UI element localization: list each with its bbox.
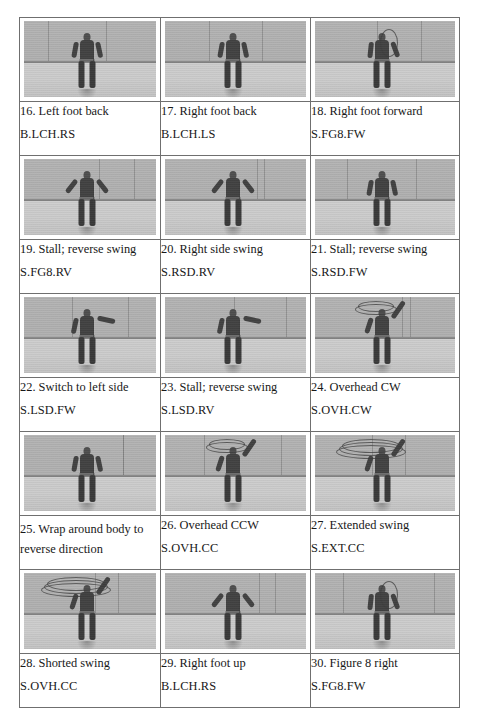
leg-shape <box>79 337 85 364</box>
figure-caption-cell: 26. Overhead CCWS.OVH.CC <box>161 516 311 570</box>
figure-technique-code: S.LSD.RV <box>161 404 310 416</box>
legs-shape <box>374 61 391 88</box>
torso-shape <box>80 178 94 199</box>
figure-caption-title: 16. Left foot back <box>20 105 160 117</box>
figure-photo-cell <box>161 156 311 240</box>
figure-caption-cell: 23. Stall; reverse swingS.LSD.RV <box>161 378 311 432</box>
gym-photo <box>24 297 156 373</box>
figure-caption-title: 21. Stall; reverse swing <box>311 243 459 255</box>
figure-caption-row: 28. Shorted swingS.OVH.CC29. Right foot … <box>20 654 460 708</box>
leg-shape <box>224 199 230 226</box>
leg-shape <box>374 337 380 364</box>
wall-seam <box>281 435 282 475</box>
rope-loop <box>206 442 248 453</box>
left-arm-shape <box>368 42 375 58</box>
figure-technique-code: B.LCH.LS <box>161 128 310 140</box>
left-arm-shape <box>71 318 79 335</box>
figure-photo-cell <box>161 432 311 516</box>
legs-shape <box>374 475 391 502</box>
figure-caption-cell: 20. Right side swingS.RSD.RV <box>161 240 311 294</box>
wall-seam <box>275 573 276 613</box>
figure-technique-code: S.LSD.FW <box>20 404 160 416</box>
leg-shape <box>79 613 85 640</box>
figure-photo-cell <box>20 432 161 516</box>
left-arm-shape <box>364 318 374 335</box>
figure-technique-code: S.OVH.CC <box>20 680 160 692</box>
rope-line <box>93 320 94 346</box>
figure-caption-title: 28. Shorted swing <box>20 657 160 669</box>
figure-caption-cell: 21. Stall; reverse swingS.RSD.FW <box>311 240 460 294</box>
rope-line <box>239 320 240 346</box>
leg-shape <box>385 337 391 364</box>
legs-shape <box>224 475 241 502</box>
leg-shape <box>90 613 96 640</box>
torso-shape <box>80 316 94 337</box>
gym-photo <box>24 573 156 649</box>
document-page: 16. Left foot backB.LCH.RS17. Right foot… <box>0 0 478 721</box>
wall-seam <box>118 573 119 613</box>
gym-photo <box>315 297 455 373</box>
figure-photo-row <box>20 294 460 378</box>
figure-caption-title: 24. Overhead CW <box>311 381 459 393</box>
figure-caption-title: 20. Right side swing <box>161 243 310 255</box>
figure-photo-cell <box>20 156 161 240</box>
floor-reflection <box>372 227 392 235</box>
rope-loop <box>336 445 406 459</box>
person-figure <box>220 447 246 503</box>
floor-reflection <box>372 89 392 97</box>
left-arm-shape <box>217 42 225 59</box>
gym-photo <box>165 573 306 649</box>
figure-caption-title: 17. Right foot back <box>161 105 310 117</box>
right-arm-shape <box>97 316 116 325</box>
floor-reflection <box>372 503 392 511</box>
right-arm-shape <box>241 593 255 609</box>
gym-photo <box>315 21 455 97</box>
torso-shape <box>375 316 389 337</box>
figure-caption-title: 25. Wrap around body to reverse directio… <box>20 519 160 559</box>
floor-reflection <box>223 227 243 235</box>
gym-photo <box>165 159 306 235</box>
figure-caption-title: 26. Overhead CCW <box>161 519 310 531</box>
figure-photo-row <box>20 432 460 516</box>
left-arm-shape <box>210 593 224 609</box>
figure-technique-code: S.RSD.RV <box>161 266 310 278</box>
figure-caption-title: 30. Figure 8 right <box>311 657 459 669</box>
figure-technique-code: S.OVH.CW <box>311 404 459 416</box>
figure-caption-title: 22. Switch to left side <box>20 381 160 393</box>
figure-caption-title: 29. Right foot up <box>161 657 310 669</box>
figure-photo-cell <box>311 18 460 102</box>
figure-photo-cell <box>311 570 460 654</box>
left-arm-shape <box>65 179 79 195</box>
left-arm-shape <box>368 594 375 610</box>
figure-caption-cell: 28. Shorted swingS.OVH.CC <box>20 654 161 708</box>
leg-shape <box>385 61 391 88</box>
gym-photo <box>24 435 156 511</box>
legs-shape <box>79 613 96 640</box>
rope-line <box>93 182 94 208</box>
gym-photo <box>315 159 455 235</box>
leg-shape <box>79 199 85 226</box>
figure-caption-cell: 22. Switch to left sideS.LSD.FW <box>20 378 161 432</box>
person-figure <box>74 309 100 365</box>
gym-photo <box>24 159 156 235</box>
figure-caption-title: 23. Stall; reverse swing <box>161 381 310 393</box>
floor-reflection <box>223 503 243 511</box>
gym-photo <box>315 573 455 649</box>
figure-technique-code: S.FG8.FW <box>311 128 459 140</box>
figure-technique-code: B.LCH.RS <box>20 128 160 140</box>
torso-shape <box>375 178 389 199</box>
figure-caption-title: 27. Extended swing <box>311 519 459 531</box>
torso-shape <box>226 454 240 475</box>
person-figure <box>220 309 246 365</box>
legs-shape <box>374 613 391 640</box>
gym-photo <box>165 21 306 97</box>
figure-grid-table: 16. Left foot backB.LCH.RS17. Right foot… <box>19 17 460 708</box>
rope-line <box>93 44 94 70</box>
floor-reflection <box>77 365 97 373</box>
rope-loop <box>355 304 397 315</box>
figure-technique-code: S.FG8.RV <box>20 266 160 278</box>
figure-caption-row: 19. Stall; reverse swingS.FG8.RV20. Righ… <box>20 240 460 294</box>
floor-reflection <box>223 89 243 97</box>
figure-caption-cell: 29. Right foot upB.LCH.RS <box>161 654 311 708</box>
wall-seam <box>416 159 417 199</box>
